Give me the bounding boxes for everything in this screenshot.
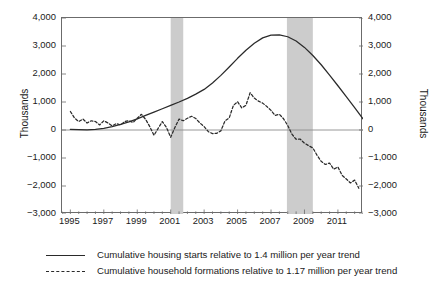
y-tick-label-right: 2,000: [368, 68, 391, 77]
y-tick-label-right: 4,000: [368, 12, 391, 21]
y-tick-label-left: −1,000: [27, 152, 56, 161]
legend-entry-housing-starts: Cumulative housing starts relative to 1.…: [0, 248, 423, 264]
legend-swatch-dashed-line: [46, 271, 85, 274]
y-tick-label-left: −2,000: [27, 180, 56, 189]
y-tick-label-left: 4,000: [33, 12, 56, 21]
series-line-household-formations: [70, 93, 358, 188]
recession-band: [287, 18, 313, 214]
y-axis-title-right: Thousands: [418, 69, 429, 159]
y-tick-label-right: 1,000: [368, 96, 391, 105]
y-axis-title-left: Thousands: [19, 69, 30, 159]
legend-label-household-formations: Cumulative household formations relative…: [97, 265, 397, 277]
y-tick-label-right: −3,000: [368, 208, 397, 217]
y-tick-label-right: 3,000: [368, 40, 391, 49]
data-series: [70, 35, 363, 188]
y-tick-label-left: 3,000: [33, 40, 56, 49]
y-tick-label-left: 0: [51, 124, 56, 133]
x-tick-label: 2011: [317, 216, 357, 225]
plot-canvas: [62, 18, 363, 214]
series-line-housing-starts: [70, 35, 363, 130]
y-tick-label-right: 0: [368, 124, 373, 133]
recession-band: [171, 18, 184, 214]
y-tick-label-right: −2,000: [368, 180, 397, 189]
chart-legend: Cumulative housing starts relative to 1.…: [0, 248, 423, 280]
y-tick-label-left: 1,000: [33, 96, 56, 105]
plot-area: [61, 17, 362, 213]
legend-swatch-solid-line: [46, 255, 85, 258]
legend-label-housing-starts: Cumulative housing starts relative to 1.…: [97, 249, 360, 261]
axis-tick-marks: [62, 18, 363, 214]
y-tick-label-right: −1,000: [368, 152, 397, 161]
legend-entry-household-formations: Cumulative household formations relative…: [0, 264, 423, 280]
y-tick-label-left: 2,000: [33, 68, 56, 77]
